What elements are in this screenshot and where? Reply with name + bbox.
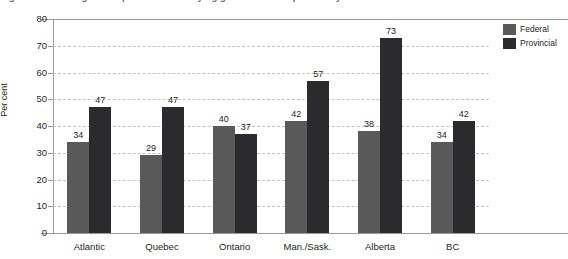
y-axis-tick-label: 20 — [23, 175, 47, 185]
y-axis-tick-mark — [48, 180, 53, 181]
y-axis-tick-label: 30 — [23, 148, 47, 158]
plot-area: 344729474037425738733442 — [53, 19, 489, 233]
y-axis-tick-mark — [48, 233, 53, 234]
gridline — [53, 206, 489, 207]
y-axis-tick-label: 50 — [23, 94, 47, 104]
y-axis-tick-label: 80 — [23, 14, 47, 24]
y-axis-tick-label: 0 — [23, 228, 47, 238]
bar-provincial-atlantic[interactable]: 47 — [89, 107, 111, 233]
bar-provincial-bc[interactable]: 42 — [453, 121, 475, 233]
bar-value-label: 40 — [219, 115, 229, 124]
bar-federal-alberta[interactable]: 38 — [358, 131, 380, 233]
y-axis-tick-mark — [48, 153, 53, 154]
bar-federal-atlantic[interactable]: 34 — [67, 142, 89, 233]
figure-container: Figure 3 Percentage of respondents ident… — [0, 0, 568, 259]
bar-provincial-man-sask[interactable]: 57 — [307, 81, 329, 233]
gridline — [53, 73, 489, 74]
figure-title-cropped: Figure 3 Percentage of respondents ident… — [0, 0, 568, 5]
bar-value-label: 37 — [241, 123, 251, 132]
legend-item-provincial[interactable]: Provincial — [503, 38, 557, 49]
bar-provincial-alberta[interactable]: 73 — [380, 38, 402, 233]
bar-value-label: 29 — [146, 144, 156, 153]
bar-federal-bc[interactable]: 34 — [431, 142, 453, 233]
y-axis-tick-label: 10 — [23, 201, 47, 211]
bar-value-label: 34 — [73, 131, 83, 140]
y-axis-tick-label: 40 — [23, 121, 47, 131]
x-axis-category-label: BC — [405, 241, 501, 252]
gridline — [53, 153, 489, 154]
bar-federal-quebec[interactable]: 29 — [140, 155, 162, 233]
bar-group: 3447 — [67, 19, 111, 233]
bar-value-label: 34 — [437, 131, 447, 140]
bar-group: 3873 — [358, 19, 402, 233]
bar-value-label: 47 — [168, 96, 178, 105]
y-axis-label: Per cent — [0, 70, 9, 130]
bar-value-label: 57 — [313, 70, 323, 79]
y-axis-tick-mark — [48, 46, 53, 47]
legend-item-federal[interactable]: Federal — [503, 24, 557, 35]
bar-federal-man-sask[interactable]: 42 — [285, 121, 307, 233]
gridline — [53, 99, 489, 100]
legend-label-federal: Federal — [520, 25, 549, 34]
y-axis-tick-mark — [48, 206, 53, 207]
gridline — [53, 180, 489, 181]
legend-label-provincial: Provincial — [520, 39, 557, 48]
legend-swatch-federal — [503, 24, 516, 35]
bar-federal-ontario[interactable]: 40 — [213, 126, 235, 233]
bar-provincial-quebec[interactable]: 47 — [162, 107, 184, 233]
bar-value-label: 42 — [291, 110, 301, 119]
bar-value-label: 42 — [459, 110, 469, 119]
bar-group: 3442 — [431, 19, 475, 233]
y-axis-tick-mark — [48, 99, 53, 100]
bar-value-label: 47 — [95, 96, 105, 105]
bar-group: 4037 — [213, 19, 257, 233]
y-axis-tick-label: 70 — [23, 41, 47, 51]
bar-value-label: 38 — [364, 120, 374, 129]
chart-legend: Federal Provincial — [503, 24, 557, 52]
legend-swatch-provincial — [503, 38, 516, 49]
bar-provincial-ontario[interactable]: 37 — [235, 134, 257, 233]
y-axis-tick-mark — [48, 73, 53, 74]
bar-group: 4257 — [285, 19, 329, 233]
bar-value-label: 73 — [386, 27, 396, 36]
x-axis-line — [41, 233, 568, 234]
y-axis-tick-mark — [48, 19, 53, 20]
gridline — [53, 126, 489, 127]
gridline — [53, 46, 489, 47]
y-axis-tick-mark — [48, 126, 53, 127]
bar-group: 2947 — [140, 19, 184, 233]
y-axis-tick-label: 60 — [23, 68, 47, 78]
